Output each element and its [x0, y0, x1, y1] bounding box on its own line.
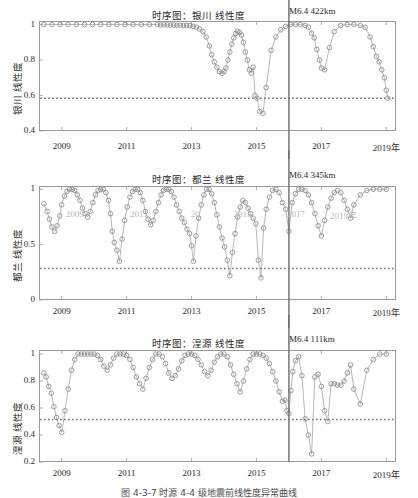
ghost-year-label-3: 2013	[234, 209, 252, 219]
panel3-ytick-0: 1	[0, 348, 35, 358]
panel3-ytick-1: 0.8	[0, 375, 35, 385]
panel2-xtick-1: 2011	[97, 306, 157, 316]
panel-huangyuan: 时序图：湟源 线性度 M6.4 111km 湟源 线性度 10.80.60.40…	[0, 325, 418, 498]
panel3-ytick-4: 0.2	[0, 456, 35, 466]
panel3-markers	[42, 352, 389, 456]
ghost-year-label-5: 2019年	[330, 209, 357, 222]
panel2-xtick-3: 2015	[226, 306, 286, 316]
panel2-ytick-0: 1	[0, 183, 35, 193]
ghost-year-label-2: 20	[191, 209, 200, 219]
panel3-xtick-2: 2013	[162, 468, 222, 478]
panel2-xtick-0: 2009	[32, 306, 92, 316]
panel1-xtick-1: 2011	[97, 141, 157, 151]
panel1-ytick-2: 0.6	[0, 90, 35, 100]
figure-container: 时序图：银川 线性度 M6.4 422km 银川 线性度 10.80.60.42…	[0, 0, 418, 498]
panel2-series-plot	[0, 160, 418, 320]
figure-caption: 图 4-3-7 时源 4-4 级地震前线性度异常曲线	[0, 486, 418, 498]
panel1-xtick-2: 2013	[162, 141, 222, 151]
panel1-markers	[42, 22, 391, 115]
panel1-ytick-3: 0.4	[0, 125, 35, 135]
panel2-ytick-1: 0.5	[0, 239, 35, 249]
panel3-xtick-0: 2009	[32, 468, 92, 478]
ghost-year-label-4: 2017	[287, 209, 305, 219]
panel3-xtick-5: 2019年	[356, 468, 416, 481]
ghost-year-label-1: 2011	[130, 209, 148, 219]
panel1-xtick-3: 2015	[226, 141, 286, 151]
panel3-ytick-3: 0.4	[0, 429, 35, 439]
panel1-ytick-1: 0.8	[0, 54, 35, 64]
ghost-year-label-0: 2009	[66, 209, 84, 219]
panel1-ytick-0: 1	[0, 19, 35, 29]
panel2-ytick-2: 0	[0, 294, 35, 304]
panel3-xtick-1: 2011	[97, 468, 157, 478]
panel1-series-plot	[0, 0, 418, 155]
panel2-xtick-5: 2019年	[356, 306, 416, 319]
panel3-xtick-3: 2015	[226, 468, 286, 478]
panel-dulan: 时序图：都兰 线性度 M6.4 345km 都兰 线性度 20092011202…	[0, 160, 418, 320]
panel1-xtick-4: 2017	[291, 141, 351, 151]
panel1-xtick-0: 2009	[32, 141, 92, 151]
panel3-connector-line	[44, 354, 386, 454]
panel2-xtick-4: 2017	[291, 306, 351, 316]
panel3-xtick-4: 2017	[291, 468, 351, 478]
panel-yinchuan: 时序图：银川 线性度 M6.4 422km 银川 线性度 10.80.60.42…	[0, 0, 418, 155]
panel2-xtick-2: 2013	[162, 306, 222, 316]
panel3-ytick-2: 0.6	[0, 402, 35, 412]
panel1-xtick-5: 2019年	[356, 141, 416, 154]
